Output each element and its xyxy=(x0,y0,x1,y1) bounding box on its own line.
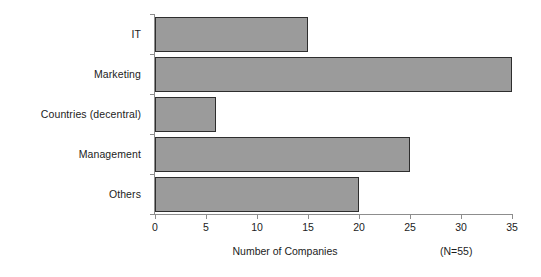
x-tick-label: 10 xyxy=(251,221,263,234)
category-label-management: Management xyxy=(1,148,141,160)
category-axis-labels: IT Marketing Countries (decentral) Manag… xyxy=(0,0,148,220)
x-axis-line xyxy=(154,214,513,215)
bar xyxy=(155,137,410,172)
x-tick-mark xyxy=(359,215,360,219)
category-label-countries-decentral: Countries (decentral) xyxy=(1,108,141,120)
x-tick-mark xyxy=(461,215,462,219)
bar xyxy=(155,57,512,92)
x-tick-mark xyxy=(155,215,156,219)
x-tick-label: 30 xyxy=(455,221,467,234)
category-label-others: Others xyxy=(1,188,141,200)
x-tick-label: 15 xyxy=(302,221,314,234)
x-tick-label: 5 xyxy=(203,221,209,234)
x-axis-title: Number of Companies xyxy=(155,245,415,258)
x-tick-mark xyxy=(410,215,411,219)
x-tick-mark xyxy=(206,215,207,219)
x-tick-label: 35 xyxy=(506,221,518,234)
category-label-it: IT xyxy=(1,28,141,40)
plot-area: 05101520253035 xyxy=(155,14,512,214)
x-tick-label: 25 xyxy=(404,221,416,234)
category-label-marketing: Marketing xyxy=(1,68,141,80)
bar xyxy=(155,97,216,132)
x-tick-mark xyxy=(308,215,309,219)
sample-size-note: (N=55) xyxy=(440,245,472,258)
bar xyxy=(155,17,308,52)
x-tick-label: 20 xyxy=(353,221,365,234)
bar xyxy=(155,177,359,212)
x-tick-mark xyxy=(512,215,513,219)
bar-chart: IT Marketing Countries (decentral) Manag… xyxy=(0,0,541,277)
x-tick-mark xyxy=(257,215,258,219)
x-tick-label: 0 xyxy=(152,221,158,234)
